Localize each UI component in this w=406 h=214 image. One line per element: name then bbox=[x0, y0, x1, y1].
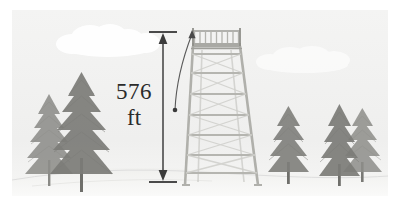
diagram-canvas: 576 ft bbox=[0, 0, 406, 214]
tower-deck bbox=[192, 43, 241, 48]
illustration-scene bbox=[12, 10, 388, 196]
tower-railing bbox=[193, 31, 240, 43]
pointer-dot bbox=[173, 108, 178, 113]
measurement-unit: ft bbox=[104, 106, 164, 129]
scene-svg bbox=[12, 10, 388, 196]
measurement-value: 576 bbox=[104, 80, 164, 103]
